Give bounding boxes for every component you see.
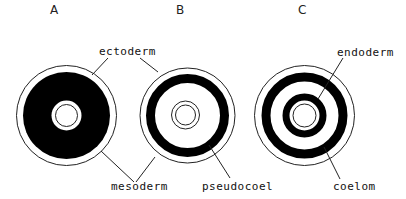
gut-inner-ring-b [176,105,196,125]
label-endoderm: endoderm [337,46,394,59]
diagram-pseudocoelomate [140,68,235,163]
panel-label-b: B [176,3,184,17]
panel-label-c: C [298,3,306,17]
label-pseudocoel: pseudocoel [202,180,273,193]
leader-mesoderm-b [136,157,155,182]
leader-coelom [324,147,340,179]
mesoderm-outer-band-c [266,77,343,154]
leader-mesoderm-a [101,151,134,182]
diagram-coelomate [255,66,355,166]
panel-label-a: A [50,3,59,17]
leader-ectoderm-b [140,58,158,72]
mesoderm-band-b [151,79,225,153]
mesoderm-inner-band-c [286,97,323,134]
endoderm-ring-c [293,104,316,127]
body-plan-diagram: A B C ectoderm mesoderm pseudocoel endod… [0,0,406,199]
label-mesoderm: mesoderm [111,180,168,193]
leader-ectoderm-a [92,58,108,75]
label-ectoderm: ectoderm [99,45,156,58]
diagram-acoelomate [17,66,117,166]
label-coelom: coelom [333,180,376,193]
